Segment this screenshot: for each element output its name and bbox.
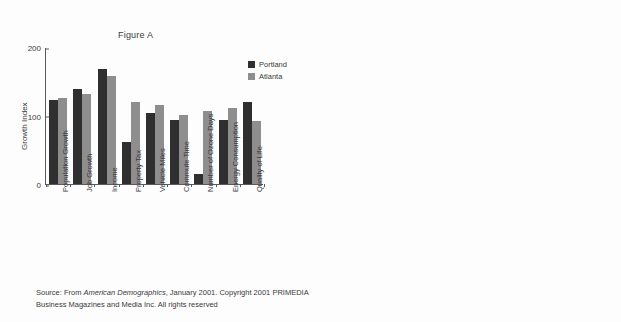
bar-portland bbox=[73, 89, 82, 184]
figure-a-y-tick: 0 bbox=[37, 181, 46, 190]
figure-a-source-note: Source: From American Demographics, Janu… bbox=[36, 287, 326, 310]
legend-label-atlanta: Atlanta bbox=[259, 72, 282, 81]
source-line-2: Business Magazines and Media Inc. All ri… bbox=[36, 300, 218, 309]
figure-a-title: Figure A bbox=[118, 30, 153, 40]
legend-swatch-atlanta bbox=[248, 73, 255, 80]
figure-a-y-axis-label: Growth Index bbox=[20, 102, 29, 150]
figure-a-x-tickmark bbox=[94, 184, 95, 187]
figure-a-x-label: Income bbox=[110, 167, 119, 192]
figure-a-x-tickmark bbox=[240, 184, 241, 187]
bar-portland bbox=[49, 100, 58, 184]
figure-a-x-label: Quality of Life bbox=[255, 146, 264, 192]
figure-a-x-tickmark bbox=[119, 184, 120, 187]
figure-a-x-label: Commute Time bbox=[182, 141, 191, 192]
bar-portland bbox=[243, 102, 252, 184]
figure-a-y-tick: 100 bbox=[28, 112, 46, 121]
figure-a-x-tickmark bbox=[143, 184, 144, 187]
figure-a-legend: Portland Atlanta bbox=[248, 60, 287, 84]
figure-a-x-label: Property Tax bbox=[134, 150, 143, 192]
legend-item: Portland bbox=[248, 60, 287, 69]
figure-a-x-tickmark bbox=[46, 184, 47, 187]
bar-portland bbox=[170, 120, 179, 184]
bar-portland bbox=[122, 142, 131, 184]
source-prefix: Source: From bbox=[36, 288, 84, 297]
figure-a-x-tickmark bbox=[216, 184, 217, 187]
figure-a-panel: Figure A Growth Index 0100200Population … bbox=[0, 0, 330, 322]
source-publication: American Demographics bbox=[84, 288, 166, 297]
figure-b-panel: Figure B Nationally Televised Events 010… bbox=[330, 0, 621, 322]
figure-a-x-tickmark bbox=[70, 184, 71, 187]
figure-a-y-tick: 200 bbox=[28, 44, 46, 53]
bar-portland bbox=[219, 120, 228, 184]
figure-a-plot-area: 0100200Population GrowthJob GrowthIncome… bbox=[45, 48, 263, 185]
legend-item: Atlanta bbox=[248, 72, 287, 81]
bar-portland bbox=[194, 174, 203, 184]
panel-divider bbox=[330, 0, 331, 322]
figure-a-x-label: Energy Consumption bbox=[231, 122, 240, 192]
figure-a-x-tickmark bbox=[167, 184, 168, 187]
figure-a-x-label: Population Growth bbox=[61, 130, 70, 192]
figure-a-x-label: Job Growth bbox=[85, 154, 94, 192]
figure-a-x-label: Number of Ozone Days bbox=[206, 114, 215, 192]
bar-portland bbox=[98, 69, 107, 184]
source-middle: , January 2001. Copyright 2001 PRIMEDIA bbox=[166, 288, 309, 297]
legend-swatch-portland bbox=[248, 61, 255, 68]
figure-a-x-label: Vehicle Miles bbox=[158, 148, 167, 192]
figure-a-x-tickmark bbox=[191, 184, 192, 187]
figure-a-bar-group bbox=[94, 48, 118, 184]
bar-portland bbox=[146, 113, 155, 184]
figures-page: Figure A Growth Index 0100200Population … bbox=[0, 0, 621, 322]
legend-label-portland: Portland bbox=[259, 60, 287, 69]
figure-a-x-tickmark bbox=[264, 184, 265, 187]
